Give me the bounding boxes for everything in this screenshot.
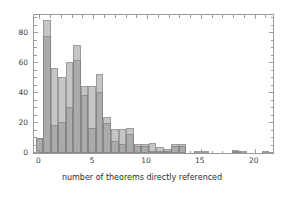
x-tick-top (72, 15, 73, 18)
x-tick-bottom (115, 151, 116, 154)
y-tick-left (34, 77, 37, 78)
y-tick-left (34, 47, 37, 48)
y-tick-right (269, 32, 273, 33)
x-tick-top (222, 15, 223, 18)
y-tick-label: 40 (4, 88, 28, 97)
x-tick-top (104, 15, 105, 18)
y-tick-left (34, 100, 37, 101)
y-tick-left (34, 92, 38, 93)
x-tick-top (126, 15, 127, 18)
y-tick-right (271, 130, 274, 131)
x-tick-top (147, 15, 148, 19)
histogram-bar (66, 107, 74, 154)
y-tick-left (34, 40, 37, 41)
x-tick-label: 20 (242, 156, 266, 165)
y-tick-left (34, 137, 37, 138)
x-tick-bottom (233, 151, 234, 154)
x-tick-label: 5 (80, 156, 104, 165)
x-tick-top (255, 15, 256, 19)
histogram-bar (171, 146, 179, 154)
x-tick-bottom (212, 151, 213, 154)
histogram-bar (126, 134, 134, 154)
y-tick-left (34, 32, 38, 33)
y-tick-right (271, 85, 274, 86)
y-tick-label: 0 (4, 148, 28, 157)
histogram-bar (81, 95, 89, 154)
y-tick-right (271, 17, 274, 18)
x-tick-bottom (201, 149, 202, 153)
x-tick-bottom (39, 149, 40, 153)
x-tick-top (190, 15, 191, 18)
y-tick-right (269, 152, 273, 153)
x-tick-bottom (244, 151, 245, 154)
y-tick-left (34, 70, 37, 71)
x-tick-bottom (222, 151, 223, 154)
y-tick-left (34, 25, 37, 26)
x-tick-bottom (104, 151, 105, 154)
x-tick-top (158, 15, 159, 18)
x-tick-bottom (158, 151, 159, 154)
histogram-bar (96, 92, 104, 154)
x-tick-bottom (136, 151, 137, 154)
histogram-bar (164, 151, 172, 153)
y-tick-right (271, 70, 274, 71)
x-tick-bottom (61, 151, 62, 154)
x-tick-top (265, 15, 266, 18)
y-tick-right (271, 25, 274, 26)
x-tick-label: 15 (188, 156, 212, 165)
x-tick-bottom (72, 151, 73, 154)
x-tick-top (179, 15, 180, 18)
y-tick-left (34, 115, 37, 116)
y-tick-right (269, 92, 273, 93)
histogram-bar (58, 122, 66, 154)
y-tick-label: 60 (4, 58, 28, 67)
y-tick-right (271, 47, 274, 48)
histogram-bar (43, 36, 51, 153)
x-tick-bottom (255, 149, 256, 153)
y-tick-left (34, 107, 37, 108)
y-tick-right (271, 107, 274, 108)
histogram-bar (134, 146, 142, 154)
y-tick-left (34, 152, 38, 153)
histogram-bar (239, 151, 247, 153)
y-tick-left (34, 17, 37, 18)
histogram-bar (51, 125, 59, 154)
histogram-bar (73, 60, 81, 153)
y-tick-left (34, 85, 37, 86)
chart-figure: 05101520020406080 number of theorems dir… (0, 0, 284, 198)
x-tick-top (61, 15, 62, 18)
y-tick-right (271, 145, 274, 146)
x-tick-top (39, 15, 40, 19)
x-tick-bottom (265, 151, 266, 154)
x-tick-top (115, 15, 116, 18)
y-tick-right (271, 115, 274, 116)
x-tick-bottom (126, 151, 127, 154)
histogram-bars (34, 15, 273, 153)
histogram-bar (103, 123, 111, 153)
histogram-bar (201, 151, 209, 153)
x-tick-top (233, 15, 234, 18)
y-tick-right (271, 137, 274, 138)
x-tick-top (212, 15, 213, 18)
x-tick-top (244, 15, 245, 18)
x-tick-top (93, 15, 94, 19)
x-tick-bottom (169, 151, 170, 154)
x-tick-bottom (179, 151, 180, 154)
y-tick-left (34, 145, 37, 146)
x-tick-top (136, 15, 137, 18)
x-tick-bottom (93, 149, 94, 153)
x-tick-bottom (82, 151, 83, 154)
x-tick-bottom (147, 149, 148, 153)
x-tick-top (50, 15, 51, 18)
y-tick-left (34, 130, 37, 131)
plot-area (33, 14, 274, 154)
histogram-bar (88, 128, 96, 154)
y-tick-left (34, 122, 38, 123)
y-tick-right (271, 55, 274, 56)
x-tick-top (82, 15, 83, 18)
y-tick-label: 20 (4, 118, 28, 127)
y-tick-right (269, 122, 273, 123)
y-tick-left (34, 62, 38, 63)
y-tick-right (271, 100, 274, 101)
x-axis-title: number of theorems directly referenced (0, 173, 284, 182)
